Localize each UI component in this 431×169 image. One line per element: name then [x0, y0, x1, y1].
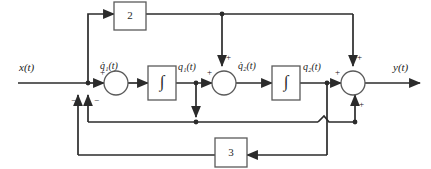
wire-q1-feedback-hop	[318, 116, 355, 122]
summer-2-sign-left: +	[207, 68, 212, 77]
summer-output-sign-left: +	[335, 68, 340, 77]
integrator-2-label: ∫	[272, 73, 300, 90]
summer-1-sign-bottom-right: −	[94, 96, 99, 105]
diagram-wires	[0, 0, 431, 169]
junction-q2-tap	[325, 81, 330, 86]
junction-q2-split	[353, 120, 358, 125]
junction-gain2-split	[220, 12, 225, 17]
summer-1-sign-bottom-left: −	[71, 96, 76, 105]
junction-q1-tap	[194, 81, 199, 86]
summer-1-circle	[104, 71, 128, 95]
summer-1-sign-left: +	[100, 68, 105, 77]
summer-output-sign-bottom: +	[359, 100, 364, 109]
gain-feedback-label: 3	[215, 147, 247, 158]
summer-2-circle	[212, 71, 236, 95]
integrator-1-label: ∫	[148, 73, 176, 90]
junction-input-tap	[86, 81, 91, 86]
summer-2-sign-top: +	[226, 53, 231, 62]
label-q2: q₂(t)	[303, 62, 321, 72]
gain-top-label: 2	[114, 10, 146, 21]
junction-q1-feedback	[194, 120, 199, 125]
summer-output-sign-top: +	[357, 53, 362, 62]
label-q1: q₁(t)	[178, 62, 196, 72]
block-diagram: x(t) q̇₁(t) q₁(t) q̇₂(t) q₂(t) y(t) 2 ∫ …	[0, 0, 431, 169]
label-q2-dot: q̇₂(t)	[238, 61, 256, 71]
label-input: x(t)	[19, 62, 34, 73]
summer-output-circle	[341, 71, 365, 95]
label-output: y(t)	[393, 62, 408, 73]
